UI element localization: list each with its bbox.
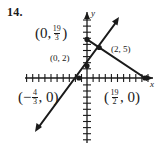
point-y-intercept-steep [84, 63, 89, 68]
y-axis-label: y [91, 9, 95, 18]
coordinate-plane-graph [0, 0, 161, 149]
fraction-19-2: 19 2 [110, 89, 120, 107]
fraction-4-3: 4 3 [32, 89, 38, 107]
label-x-intercept-shallow: ( 19 2 , 0) [104, 89, 140, 107]
label-open-paren-neg: (− [18, 90, 31, 105]
fraction-numerator: 4 [32, 89, 38, 97]
point-x-intercept-shallow [142, 75, 147, 80]
label-y-intercept-steep: (0, 2) [50, 54, 70, 63]
fraction-denominator: 2 [112, 97, 118, 106]
fraction-denominator: 3 [54, 33, 60, 42]
label-x-intercept-steep: (− 4 3 , 0) [18, 89, 58, 107]
point-y-intercept-shallow [84, 37, 89, 42]
label-y-intercept-shallow: (0, 19 3 ) [35, 25, 67, 43]
label-open-paren: (0, [35, 26, 51, 41]
point-x-intercept-steep [76, 75, 81, 80]
point-intersection [97, 45, 102, 50]
fraction-numerator: 19 [110, 89, 120, 97]
label-open-paren-192: ( [104, 90, 109, 105]
label-close-paren-neg: , 0) [38, 90, 58, 105]
y-axis-arrow-icon [84, 12, 90, 19]
label-intersection-point: (2, 5) [111, 45, 131, 54]
fraction-denominator: 3 [32, 97, 38, 106]
x-axis-label: x [150, 80, 154, 89]
label-close-paren-192: , 0) [120, 90, 140, 105]
fraction-19-3: 19 3 [52, 25, 62, 43]
fraction-numerator: 19 [52, 25, 62, 33]
math-figure: 14. [0, 0, 161, 149]
label-close-paren: ) [62, 26, 67, 41]
